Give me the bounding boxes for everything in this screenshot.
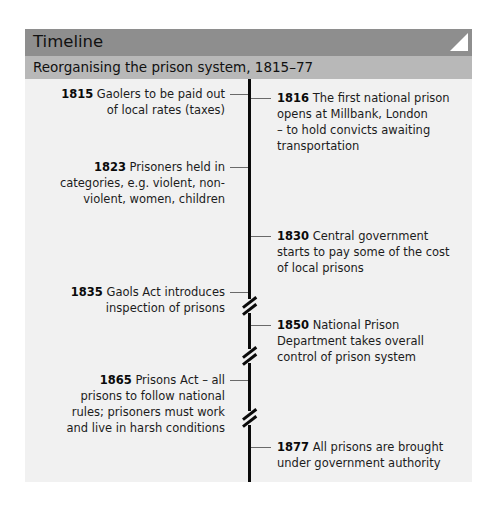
event-text: violent, women, children [83, 192, 225, 206]
event-text: rules; prisoners must work [72, 405, 225, 419]
event-text: Gaolers to be paid out [97, 87, 225, 101]
event-text: and live in harsh conditions [66, 421, 225, 435]
axis-break-icon [240, 411, 258, 425]
tick-1835 [230, 292, 248, 293]
event-text: categories, e.g. violent, non- [60, 176, 225, 190]
event-text: – to hold convicts awaiting [277, 123, 430, 137]
tick-1850 [251, 325, 271, 326]
event-1850: 1850 National Prison Department takes ov… [277, 317, 424, 365]
event-1835: 1835 Gaols Act introduces inspection of … [71, 284, 225, 316]
event-year: 1823 [94, 160, 126, 174]
event-1816: 1816 The first national prison opens at … [277, 90, 450, 154]
tick-1816 [251, 98, 271, 99]
event-text: National Prison [313, 318, 400, 332]
tick-1830 [251, 236, 271, 237]
event-1877: 1877 All prisons are brought under gover… [277, 439, 443, 471]
event-1823: 1823 Prisoners held in categories, e.g. … [60, 159, 225, 207]
event-year: 1865 [100, 373, 132, 387]
event-1865: 1865 Prisons Act – all prisons to follow… [66, 372, 225, 436]
event-text: opens at Millbank, London [277, 107, 428, 121]
header-title: Timeline [33, 31, 103, 53]
event-text: The first national prison [313, 91, 450, 105]
event-text: Department takes overall [277, 334, 424, 348]
event-year: 1816 [277, 91, 309, 105]
event-text: of local prisons [277, 261, 364, 275]
event-year: 1850 [277, 318, 309, 332]
event-year: 1877 [277, 440, 309, 454]
event-text: Central government [313, 229, 429, 243]
event-year: 1830 [277, 229, 309, 243]
event-year: 1835 [71, 285, 103, 299]
tick-1865 [230, 380, 248, 381]
axis-break-icon [240, 299, 258, 313]
event-text: prisons to follow national [80, 389, 225, 403]
subheader-title: Reorganising the prison system, 1815–77 [33, 58, 313, 77]
tick-1823 [230, 167, 248, 168]
event-1815: 1815 Gaolers to be paid out of local rat… [61, 86, 225, 118]
event-text: of local rates (taxes) [107, 103, 225, 117]
event-text: Gaols Act introduces [107, 285, 225, 299]
event-year: 1815 [61, 87, 93, 101]
event-text: inspection of prisons [106, 301, 225, 315]
event-text: All prisons are brought [313, 440, 444, 454]
event-text: starts to pay some of the cost [277, 245, 450, 259]
axis-break-icon [240, 349, 258, 363]
event-text: control of prison system [277, 350, 416, 364]
tick-1815 [230, 94, 248, 95]
timeline-panel: Timeline Reorganising the prison system,… [25, 29, 472, 482]
event-text: Prisons Act – all [135, 373, 225, 387]
tick-1877 [251, 447, 271, 448]
event-text: transportation [277, 139, 359, 153]
event-text: under government authority [277, 456, 441, 470]
event-1830: 1830 Central government starts to pay so… [277, 228, 450, 276]
timeline-header: Timeline [25, 29, 472, 56]
event-text: Prisoners held in [130, 160, 225, 174]
page-curl-icon [450, 33, 468, 51]
timeline-subheader: Reorganising the prison system, 1815–77 [25, 56, 472, 79]
